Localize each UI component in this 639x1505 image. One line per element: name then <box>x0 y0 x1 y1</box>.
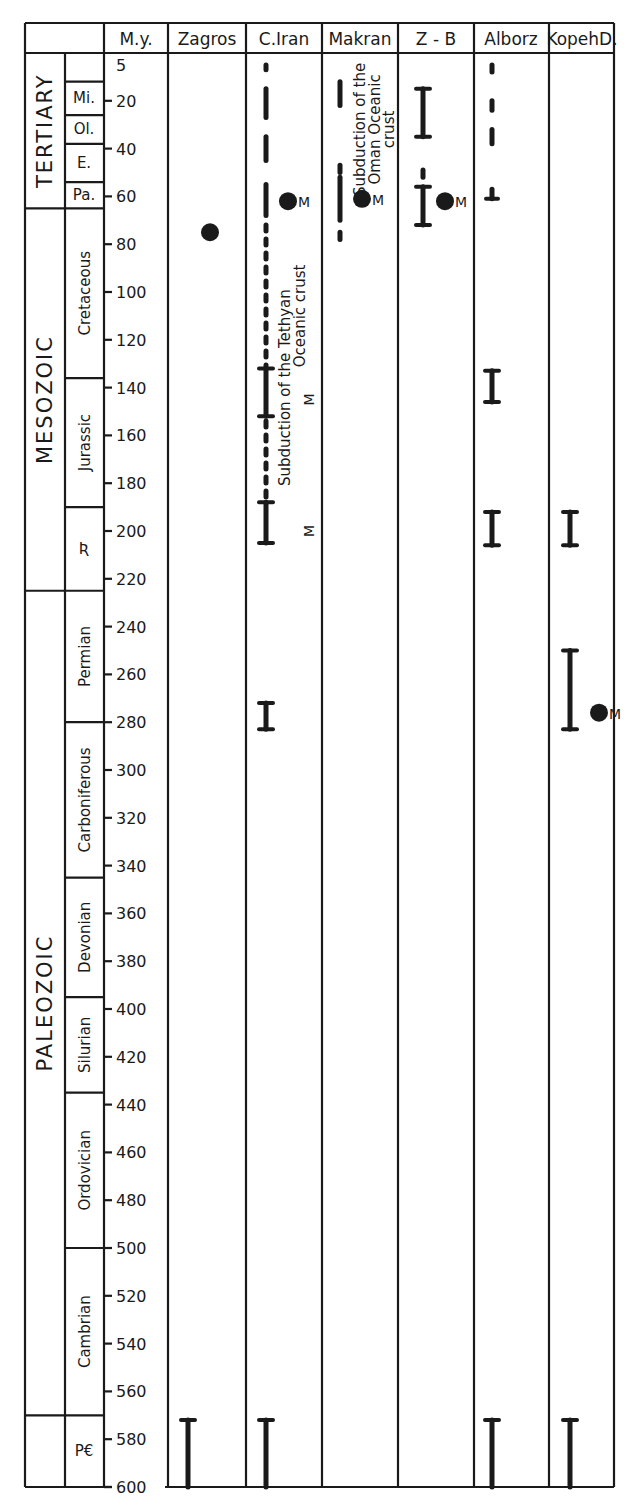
period-label: Carboniferous <box>76 747 94 852</box>
zone-alborz <box>485 65 499 1487</box>
m-label: M <box>298 194 310 210</box>
age-tick-label: 520 <box>116 1287 147 1306</box>
era-label: TERTIARY <box>33 73 57 189</box>
zone-zb: M <box>416 89 467 225</box>
zone-ciran: MMMSubduction of the TethyanOceanic crus… <box>259 65 317 1487</box>
period-label: Pa. <box>73 186 95 204</box>
age-tick-label: 220 <box>116 570 147 589</box>
zone-zagros <box>181 223 219 1487</box>
age-tick-label: 280 <box>116 713 147 732</box>
period-label: E. <box>77 154 91 172</box>
m-label: M <box>372 192 384 208</box>
age-tick-label: 380 <box>116 952 147 971</box>
magmatism-dot <box>279 192 297 210</box>
age-tick-label: 360 <box>116 904 147 923</box>
age-axis: 5204060801001201401601802002202402602803… <box>104 56 147 1497</box>
period-label: Cretaceous <box>76 251 94 336</box>
col-header-alborz: Alborz <box>484 29 538 49</box>
age-tick-label: 100 <box>116 283 147 302</box>
table-frame <box>25 23 614 1487</box>
age-tick-label: 480 <box>116 1191 147 1210</box>
period-column: Mi.Ol.E.Pa.CretaceousJurassicƦPermianCar… <box>65 82 104 1460</box>
col-header-zagros: Zagros <box>178 29 237 49</box>
my-header: M.y. <box>119 29 152 49</box>
age-tick-label: 260 <box>116 665 147 684</box>
col-header-zb: Z - B <box>416 29 456 49</box>
period-label: Mi. <box>73 89 95 107</box>
era-column: TERTIARYMESOZOICPALEOZOIC <box>25 73 65 1415</box>
age-tick-label: 20 <box>116 92 136 111</box>
age-tick-label: 340 <box>116 857 147 876</box>
period-label: P€ <box>75 1442 94 1460</box>
subduction-annotation: Oceanic crust <box>291 264 309 367</box>
subduction-annotation: crust <box>380 111 398 149</box>
age-tick-label: 160 <box>116 426 147 445</box>
age-tick-label: 120 <box>116 331 147 350</box>
era-label: PALEOZOIC <box>33 935 57 1072</box>
zone-makran: MSubduction of theOman Oceaniccrust <box>340 63 398 240</box>
age-tick-label: 180 <box>116 474 147 493</box>
header-row: M.y. Zagros C.Iran Makran Z - B Alborz K… <box>119 29 617 49</box>
col-header-makran: Makran <box>328 29 391 49</box>
age-tick-label: 500 <box>116 1239 147 1258</box>
m-label: M <box>455 194 467 210</box>
period-label: Jurassic <box>76 414 94 472</box>
era-label: MESOZOIC <box>33 335 57 464</box>
age-tick-label: 320 <box>116 809 147 828</box>
m-label: M <box>609 706 621 722</box>
period-label: Cambrian <box>76 1295 94 1368</box>
magmatism-dot <box>201 223 219 241</box>
age-tick-label: 440 <box>116 1096 147 1115</box>
period-label: Silurian <box>76 1017 94 1073</box>
age-tick-label: 240 <box>116 618 147 637</box>
age-tick-label: 580 <box>116 1430 147 1449</box>
age-tick-label: 560 <box>116 1382 147 1401</box>
magmatism-dot <box>436 192 454 210</box>
magmatism-dot <box>590 704 608 722</box>
period-label: Ʀ <box>79 540 89 558</box>
period-label: Devonian <box>76 902 94 973</box>
age-tick-label: 60 <box>116 187 136 206</box>
age-tick-label: 600 <box>116 1478 147 1497</box>
period-label: Ol. <box>74 120 95 138</box>
col-header-ciran: C.Iran <box>259 29 309 49</box>
col-header-kopehd: KopehD. <box>546 29 617 49</box>
period-label: Permian <box>76 626 94 687</box>
age-tick-label: 40 <box>116 140 136 159</box>
age-tick-label: 420 <box>116 1048 147 1067</box>
age-tick-label: 400 <box>116 1000 147 1019</box>
age-tick-label: 5 <box>116 56 126 75</box>
m-label: M <box>301 394 317 406</box>
age-tick-label: 80 <box>116 235 136 254</box>
zone-kopehd: M <box>563 512 621 1487</box>
age-tick-label: 460 <box>116 1143 147 1162</box>
age-tick-label: 140 <box>116 379 147 398</box>
m-label: M <box>301 525 317 537</box>
age-tick-label: 540 <box>116 1335 147 1354</box>
period-label: Ordovician <box>76 1130 94 1211</box>
age-tick-label: 300 <box>116 761 147 780</box>
age-tick-label: 200 <box>116 522 147 541</box>
geologic-time-chart: M.y. Zagros C.Iran Makran Z - B Alborz K… <box>0 0 639 1505</box>
